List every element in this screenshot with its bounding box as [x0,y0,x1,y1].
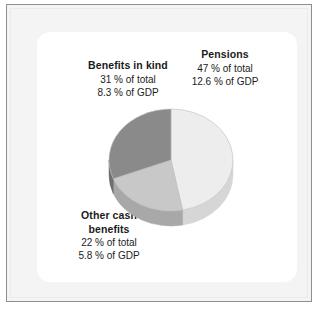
pie-chart [103,102,239,230]
pie-label-other-cash-benefits-share: 22 % of total [41,236,177,249]
figure-root: Benefits in kind 31 % of total 8.3 % of … [0,0,318,309]
pie-top-faces [109,109,233,211]
chart-card: Benefits in kind 31 % of total 8.3 % of … [37,32,297,282]
pie-label-pensions-gdp: 12.6 % of GDP [155,75,295,88]
pie-chart-svg [103,102,239,230]
pie-label-pensions-category: Pensions [155,48,295,62]
pie-label-pensions: Pensions 47 % of total 12.6 % of GDP [155,48,295,88]
figure-frame: Benefits in kind 31 % of total 8.3 % of … [6,4,312,302]
pie-label-other-cash-benefits-gdp: 5.8 % of GDP [41,249,177,262]
pie-label-pensions-share: 47 % of total [155,62,295,75]
